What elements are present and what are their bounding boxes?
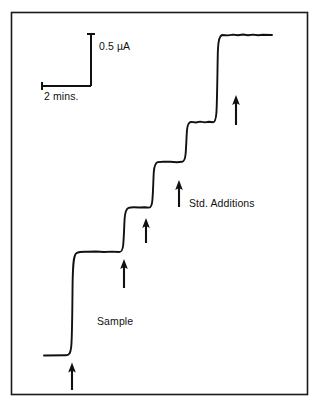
injection-arrows-group xyxy=(68,95,240,390)
injection-arrow-3 xyxy=(142,218,150,243)
injection-arrow-2 xyxy=(120,259,128,288)
sample-label: Sample xyxy=(97,315,133,327)
injection-arrow-1 xyxy=(68,363,76,391)
scale-bar-group xyxy=(42,34,95,90)
std-additions-label: Std. Additions xyxy=(189,197,255,209)
chronoamperogram-trace xyxy=(44,35,272,356)
injection-arrow-4 xyxy=(175,180,183,207)
current-scale-label: 0.5 µA xyxy=(99,40,130,52)
figure-frame xyxy=(12,13,308,395)
injection-arrow-5 xyxy=(232,95,240,125)
time-scale-label: 2 mins. xyxy=(44,90,79,102)
figure-container: 0.5 µA 2 mins. Std. Additions Sample xyxy=(0,0,321,407)
chart-canvas xyxy=(0,0,321,407)
